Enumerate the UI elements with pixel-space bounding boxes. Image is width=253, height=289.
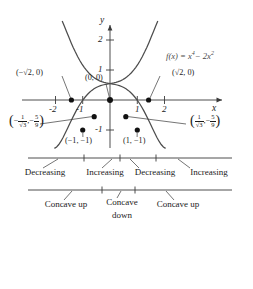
label-left-minimum: (−1, −1) bbox=[65, 137, 92, 145]
right-inflection-y-denominator: 9 bbox=[210, 121, 215, 129]
leader-left-root bbox=[62, 76, 71, 98]
left-inflection-x-fraction: 1√3 bbox=[18, 114, 27, 128]
right-inflection-y-fraction: 59 bbox=[210, 114, 215, 128]
concavity-interval-1: Concave up bbox=[30, 200, 102, 209]
monotonicity-interval-4: Increasing bbox=[176, 168, 242, 177]
x-tick-label-minus2: -2 bbox=[49, 105, 57, 114]
right-inflection-y-numerator: 5 bbox=[210, 114, 215, 121]
x-tick-label-2: 2 bbox=[162, 105, 167, 114]
label-left-root: (−√2, 0) bbox=[16, 69, 43, 77]
left-inflection-x-numerator: 1 bbox=[18, 114, 27, 121]
function-label-exponent-2: 2 bbox=[211, 50, 214, 56]
point-left-root bbox=[69, 97, 74, 102]
left-root-close: , 0) bbox=[32, 68, 43, 77]
function-label-middle: − 2x bbox=[195, 51, 211, 61]
leader-right-inflection bbox=[128, 117, 186, 124]
concavity-interval-2-line2: down bbox=[98, 211, 146, 220]
leader-left-inflection bbox=[40, 117, 92, 124]
point-right-minimum bbox=[135, 127, 140, 132]
right-inflection-x-denominator: √3 bbox=[195, 121, 204, 129]
figure-container: x y -2 -1 1 2 2 1 -1 f(x) = x4− 2x2 (−√2… bbox=[0, 0, 253, 289]
label-origin: (0, 0) bbox=[85, 74, 103, 82]
y-tick-label-minus1: -1 bbox=[95, 125, 103, 134]
y-tick-label-2: 2 bbox=[98, 35, 103, 44]
left-root-radical: √2 bbox=[23, 68, 32, 77]
label-right-root: (√2, 0) bbox=[172, 69, 194, 77]
function-label-exponent-1: 4 bbox=[192, 50, 195, 56]
concavity-interval-2-line1: Concave bbox=[98, 198, 146, 207]
right-inflection-x-numerator: 1 bbox=[195, 114, 204, 121]
monotonicity-number-line bbox=[28, 155, 232, 162]
left-inflection-paren-close: ) bbox=[39, 113, 44, 128]
right-inflection-paren-close: ) bbox=[216, 113, 221, 128]
concavity-number-line bbox=[28, 187, 232, 194]
right-root-close: , 0) bbox=[183, 68, 194, 77]
function-label-prefix: f(x) = x bbox=[166, 51, 192, 61]
label-right-inflection: (1√3,−59) bbox=[190, 114, 220, 128]
point-right-inflection bbox=[123, 114, 128, 119]
point-right-root bbox=[146, 97, 151, 102]
point-left-inflection bbox=[92, 114, 97, 119]
right-inflection-x-fraction: 1√3 bbox=[195, 114, 204, 128]
x-tick-label-minus1: -1 bbox=[76, 105, 84, 114]
leader-right-root bbox=[150, 76, 160, 98]
point-left-minimum bbox=[80, 127, 85, 132]
x-axis bbox=[22, 98, 222, 103]
left-inflection-paren-open: ( bbox=[9, 113, 14, 128]
concavity-interval-3: Concave up bbox=[142, 200, 214, 209]
function-label: f(x) = x4− 2x2 bbox=[166, 50, 214, 60]
x-tick-label-1: 1 bbox=[135, 105, 140, 114]
label-left-inflection: (−1√3,−59) bbox=[9, 114, 44, 128]
label-right-minimum: (1, −1) bbox=[123, 137, 145, 145]
point-origin bbox=[107, 97, 113, 103]
y-axis-label: y bbox=[100, 16, 104, 26]
monotonicity-interval-1: Decreasing bbox=[10, 168, 80, 177]
leader-origin bbox=[106, 84, 109, 98]
left-inflection-x-denominator: √3 bbox=[18, 121, 27, 129]
